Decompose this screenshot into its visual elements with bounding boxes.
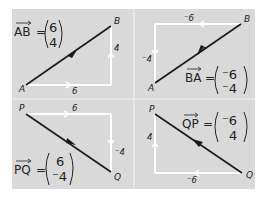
right-paren xyxy=(244,112,247,142)
right-paren xyxy=(70,153,73,185)
column-top: ⁻6 xyxy=(222,67,237,82)
horizontal-label: 6 xyxy=(72,103,78,113)
horizontal-label: 6 xyxy=(72,86,78,96)
left-paren xyxy=(215,112,218,142)
point-label-b: B xyxy=(114,16,120,26)
column-bottom: 4 xyxy=(229,128,237,143)
vector-arrowhead-icon xyxy=(66,138,76,145)
point-label-p: P xyxy=(19,103,25,113)
column-bottom: ⁻4 xyxy=(52,169,67,184)
point-label-q: Q xyxy=(114,172,121,182)
equals-sign: = xyxy=(36,25,46,39)
equals-sign: = xyxy=(36,163,46,177)
column-bottom: ⁻4 xyxy=(222,81,237,96)
right-paren xyxy=(59,20,62,48)
vector-name: PQ xyxy=(14,163,31,177)
vector-name: BA xyxy=(185,71,202,85)
vertical-label: 4 xyxy=(147,132,152,142)
point-label-a: A xyxy=(147,83,154,93)
column-top: 6 xyxy=(56,154,64,169)
vector-diagram: A B 6 4 AB = 6 4 A B ⁻6 ⁻4 BA = ⁻6 ⁻4 xyxy=(0,0,268,199)
point-label-p: P xyxy=(149,104,155,114)
panel-ab: A B 6 4 AB = 6 4 xyxy=(14,16,120,96)
column-bottom: 4 xyxy=(49,35,57,50)
left-paren xyxy=(46,153,49,185)
vertical-label: 4 xyxy=(114,43,119,53)
vertical-label: ⁻4 xyxy=(115,147,125,157)
vertical-label: ⁻4 xyxy=(142,54,152,64)
horizontal-label: ⁻6 xyxy=(184,13,194,23)
vector-name: AB xyxy=(14,25,30,39)
column-top: ⁻6 xyxy=(222,113,237,128)
panel-qp: P Q ⁻6 4 QP = ⁻6 4 xyxy=(147,104,253,185)
panel-pq: P Q 6 ⁻4 PQ = 6 ⁻4 xyxy=(14,103,125,185)
point-label-a: A xyxy=(18,84,25,94)
vector-name: QP xyxy=(182,117,199,131)
column-top: 6 xyxy=(49,20,57,35)
equals-sign: = xyxy=(205,71,215,85)
right-paren xyxy=(244,66,247,94)
point-label-q: Q xyxy=(246,170,253,180)
equals-sign: = xyxy=(203,117,213,131)
panel-ba: A B ⁻6 ⁻4 BA = ⁻6 ⁻4 xyxy=(142,13,250,96)
point-label-b: B xyxy=(244,14,250,24)
horizontal-label: ⁻6 xyxy=(187,175,197,185)
left-paren xyxy=(215,66,218,94)
